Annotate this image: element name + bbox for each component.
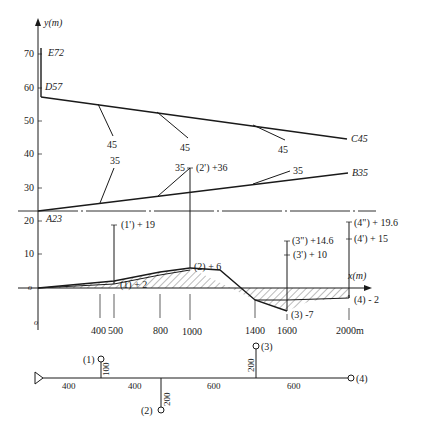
segment-length-4: 600 [287, 381, 301, 391]
branch-45-3: 45 [278, 144, 288, 155]
y-tick-30: 30 [24, 182, 34, 193]
label-node2: (2) + 6 [194, 261, 221, 273]
label-B35: B35 [352, 167, 368, 178]
pipe-network-diagram: y(m) 70 60 50 40 30 20 10 o o x(m) [0, 0, 422, 434]
segment-length-3: 600 [207, 381, 221, 391]
y-tick-40: 40 [24, 148, 34, 159]
y-tick-50: 50 [24, 115, 34, 126]
y-tick-20: 20 [24, 215, 34, 226]
label-node3-prime: (3') + 10 [293, 249, 327, 261]
label-node2-prime: (2') +36 [196, 162, 228, 174]
label-node3: (3) -7 [291, 309, 314, 321]
y-axis-label: y(m) [43, 17, 63, 29]
label-A23: A23 [45, 213, 62, 224]
pipe-network-schematic: (4) (1) 100 (2) 200 (3) 200 400 400 600 … [35, 341, 368, 417]
label-D57: D57 [44, 81, 63, 92]
branch3-length: 200 [246, 358, 256, 372]
branch-35-3: 35 [293, 165, 303, 176]
origin-label: o [34, 318, 38, 327]
x-tick-2000: 2000m [336, 325, 364, 336]
ground-profile [38, 268, 349, 311]
node3-circle-icon [253, 343, 259, 349]
node2-circle-icon [158, 407, 164, 413]
y-tick-10: 10 [24, 248, 34, 259]
branch-45-1: 45 [107, 139, 117, 150]
branch-45-2: 45 [180, 142, 190, 153]
label-node4: (4) - 2 [354, 294, 379, 306]
label-node1: (1) + 2 [120, 279, 147, 291]
y-ticks: 70 60 50 40 30 20 10 o o [24, 48, 42, 327]
x-tick-400: 400 [91, 325, 106, 336]
x-axis-label: x(m) [347, 270, 367, 282]
upper-pressure-line: E72 D57 C45 45 45 45 [41, 47, 368, 155]
x-tick-1000: 1000 [182, 326, 202, 337]
label-node1-prime: (1') + 19 [121, 219, 155, 231]
y-tick-60: 60 [24, 82, 34, 93]
x-tick-500: 500 [108, 325, 123, 336]
segment-length-2: 400 [128, 381, 142, 391]
label-C45: C45 [351, 133, 368, 144]
label-node3-dprime: (3") +14.6 [292, 235, 333, 247]
branch2-length: 200 [162, 392, 172, 406]
node1-circle-icon [98, 356, 104, 362]
source-triangle-icon [35, 372, 43, 384]
y-axis: y(m) 70 60 50 40 30 20 10 o o [24, 17, 63, 330]
label-node4-prime: (4') + 15 [354, 233, 388, 245]
net-node4: (4) [356, 373, 368, 385]
x-tick-800: 800 [153, 325, 168, 336]
x-tick-1400: 1400 [245, 325, 265, 336]
label-node4-dprime: (4") + 19.6 [354, 217, 398, 229]
net-node3: (3) [261, 341, 273, 353]
y-tick-70: 70 [24, 48, 34, 59]
branch-35-2: 35 [175, 162, 185, 173]
branch1-length: 100 [101, 362, 111, 376]
x-tick-1600: 1600 [277, 325, 297, 336]
label-E72: E72 [47, 47, 64, 58]
net-node2: (2) [141, 405, 153, 417]
net-node1: (1) [83, 354, 95, 366]
branch-35-1: 35 [110, 155, 120, 166]
segment-length-1: 400 [62, 381, 76, 391]
node4-circle-icon [348, 375, 354, 381]
